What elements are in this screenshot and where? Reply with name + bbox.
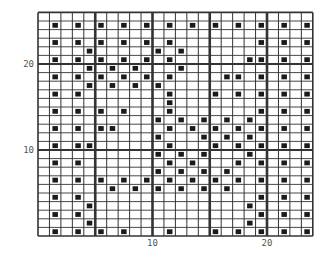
- filled-cell: [304, 143, 310, 148]
- filled-cell: [224, 169, 230, 174]
- filled-cell: [98, 57, 104, 62]
- filled-cell: [224, 135, 230, 140]
- filled-cell: [304, 212, 310, 217]
- filled-cell: [121, 23, 127, 28]
- filled-cell: [121, 178, 127, 183]
- grid-thin-lines: [38, 12, 313, 236]
- filled-cell: [281, 178, 287, 183]
- filled-cell: [75, 92, 81, 97]
- filled-cell: [259, 40, 265, 45]
- filled-cell: [52, 143, 58, 148]
- filled-cell: [259, 92, 265, 97]
- filled-cell: [167, 126, 173, 131]
- filled-cell: [213, 92, 219, 97]
- filled-cell: [201, 186, 207, 191]
- filled-cell: [52, 178, 58, 183]
- filled-cell: [259, 212, 265, 217]
- filled-cell: [259, 160, 265, 165]
- filled-cell: [75, 40, 81, 45]
- filled-cell: [304, 178, 310, 183]
- filled-cell: [75, 195, 81, 200]
- filled-cell: [281, 143, 287, 148]
- filled-cell: [98, 23, 104, 28]
- filled-cell: [236, 23, 242, 28]
- filled-cell: [236, 92, 242, 97]
- filled-cell: [259, 229, 265, 234]
- filled-cell: [224, 117, 230, 122]
- filled-cell: [236, 143, 242, 148]
- filled-cell: [259, 178, 265, 183]
- filled-cell: [110, 186, 116, 191]
- filled-cell: [133, 66, 139, 71]
- filled-cell: [247, 135, 253, 140]
- filled-cell: [167, 143, 173, 148]
- filled-cell: [304, 74, 310, 79]
- filled-cell: [52, 74, 58, 79]
- filled-cell: [52, 160, 58, 165]
- filled-cell: [304, 229, 310, 234]
- filled-cell: [281, 23, 287, 28]
- filled-cell: [281, 160, 287, 165]
- filled-cell: [167, 74, 173, 79]
- filled-cell: [190, 23, 196, 28]
- filled-cell: [110, 66, 116, 71]
- filled-cell: [247, 203, 253, 208]
- filled-cell: [281, 212, 287, 217]
- filled-cell: [98, 74, 104, 79]
- filled-cell: [155, 169, 161, 174]
- filled-cell: [247, 57, 253, 62]
- filled-cell: [155, 49, 161, 54]
- filled-cell: [304, 40, 310, 45]
- filled-cell: [121, 109, 127, 114]
- filled-cell: [167, 92, 173, 97]
- filled-cell: [190, 178, 196, 183]
- filled-cell: [52, 23, 58, 28]
- filled-cell: [167, 23, 173, 28]
- filled-cell: [144, 57, 150, 62]
- filled-cell: [52, 109, 58, 114]
- filled-cell: [178, 152, 184, 157]
- filled-cell: [259, 109, 265, 114]
- y-tick-label: 20: [23, 59, 34, 69]
- filled-cell: [121, 229, 127, 234]
- filled-cell: [75, 229, 81, 234]
- filled-cell: [167, 229, 173, 234]
- filled-cell: [52, 57, 58, 62]
- filled-cell: [133, 83, 139, 88]
- filled-cell: [247, 117, 253, 122]
- filled-cell: [110, 83, 116, 88]
- filled-cell: [247, 221, 253, 226]
- filled-cell: [75, 143, 81, 148]
- filled-cell: [87, 83, 93, 88]
- filled-cell: [201, 135, 207, 140]
- filled-cell: [75, 57, 81, 62]
- filled-cell: [224, 186, 230, 191]
- filled-cell: [167, 100, 173, 105]
- filled-cell: [98, 178, 104, 183]
- filled-cell: [304, 195, 310, 200]
- filled-cell: [236, 178, 242, 183]
- filled-cell: [259, 74, 265, 79]
- filled-cell: [155, 135, 161, 140]
- stitch-chart: 10201020: [0, 0, 330, 262]
- filled-cell: [201, 169, 207, 174]
- filled-cell: [75, 178, 81, 183]
- filled-cell: [201, 117, 207, 122]
- filled-cell: [259, 143, 265, 148]
- filled-cell: [281, 195, 287, 200]
- filled-cell: [75, 126, 81, 131]
- filled-cell: [98, 40, 104, 45]
- filled-cell: [98, 109, 104, 114]
- filled-cell: [281, 57, 287, 62]
- filled-cell: [201, 152, 207, 157]
- filled-cell: [213, 126, 219, 131]
- filled-cell: [52, 92, 58, 97]
- filled-cell: [213, 229, 219, 234]
- filled-cell: [213, 23, 219, 28]
- filled-cell: [178, 117, 184, 122]
- filled-cell: [304, 57, 310, 62]
- filled-cell: [167, 178, 173, 183]
- filled-cell: [178, 186, 184, 191]
- filled-cell: [236, 160, 242, 165]
- x-tick-label: 20: [262, 238, 273, 248]
